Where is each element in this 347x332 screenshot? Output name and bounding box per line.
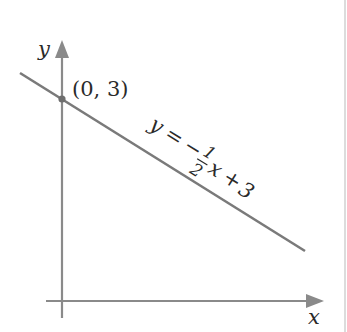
x-axis-label: x <box>308 305 320 329</box>
equation-label: y = − 1 2 x + 3 <box>137 109 265 211</box>
y-axis <box>55 40 69 318</box>
point-label: (0, 3) <box>72 77 128 101</box>
graph-figure: y x (0, 3) y = − 1 2 x + 3 <box>0 0 347 332</box>
y-axis-arrow-icon <box>55 40 69 58</box>
x-axis <box>46 294 324 308</box>
y-axis-label: y <box>37 37 51 61</box>
graph-svg: y x (0, 3) y = − 1 2 x + 3 <box>0 0 347 332</box>
intercept-point <box>58 95 65 102</box>
